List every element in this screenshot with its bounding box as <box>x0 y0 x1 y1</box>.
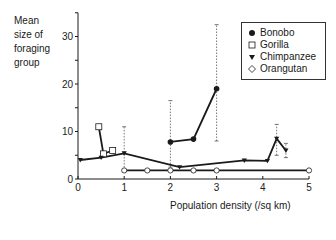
chart-legend: Bonobo Gorilla Chimpanzee Orangutan <box>241 22 326 80</box>
x-tick-label: 1 <box>121 182 127 193</box>
legend-item-chimpanzee: Chimpanzee <box>248 51 316 63</box>
legend-label: Bonobo <box>260 27 294 38</box>
x-tick-label: 4 <box>260 182 266 193</box>
chimpanzee-marker <box>283 149 288 153</box>
y-tick-label: 10 <box>62 126 74 137</box>
legend-item-orangutan: Orangutan <box>248 63 307 75</box>
triangle-down-icon <box>248 53 256 61</box>
x-tick-label: 5 <box>306 182 312 193</box>
legend-label: Orangutan <box>260 63 307 74</box>
bonobo-marker <box>191 136 197 142</box>
series-line-bonobo <box>170 89 216 142</box>
legend-item-bonobo: Bonobo <box>248 27 294 39</box>
x-axis-label: Population density (/sq km) <box>170 200 291 211</box>
gorilla-marker <box>96 124 102 130</box>
y-tick-label: 20 <box>62 79 74 90</box>
orangutan-marker <box>214 168 219 173</box>
orangutan-marker <box>122 168 127 173</box>
bonobo-marker <box>214 86 220 92</box>
legend-label: Chimpanzee <box>260 51 316 62</box>
x-tick-label: 2 <box>168 182 174 193</box>
legend-item-gorilla: Gorilla <box>248 39 289 51</box>
x-tick-label: 3 <box>214 182 220 193</box>
bonobo-marker <box>168 139 174 145</box>
orangutan-marker <box>306 168 311 173</box>
y-tick-label: 0 <box>67 174 73 185</box>
filled-circle-icon <box>248 29 256 37</box>
y-tick-label: 30 <box>62 31 74 42</box>
orangutan-marker <box>191 168 196 173</box>
legend-label: Gorilla <box>260 39 289 50</box>
gorilla-marker <box>110 148 116 154</box>
orangutan-marker <box>145 168 150 173</box>
orangutan-marker <box>168 168 173 173</box>
open-square-icon <box>248 41 256 49</box>
open-diamond-icon <box>248 65 256 73</box>
x-tick-label: 0 <box>75 182 81 193</box>
